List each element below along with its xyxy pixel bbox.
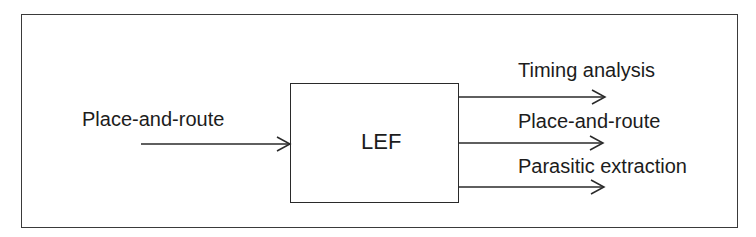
output-label-place-and-route: Place-and-route [518,110,660,133]
input-arrow [141,137,290,151]
output-arrow-timing [459,90,605,104]
output-label-timing-analysis: Timing analysis [518,59,655,82]
lef-label: LEF [361,129,401,155]
input-label-place-and-route: Place-and-route [82,108,224,131]
lef-block: LEF [290,83,459,203]
output-label-parasitic-extraction: Parasitic extraction [518,155,687,178]
output-arrow-place-and-route [459,136,603,150]
output-arrow-parasitic [459,180,604,194]
